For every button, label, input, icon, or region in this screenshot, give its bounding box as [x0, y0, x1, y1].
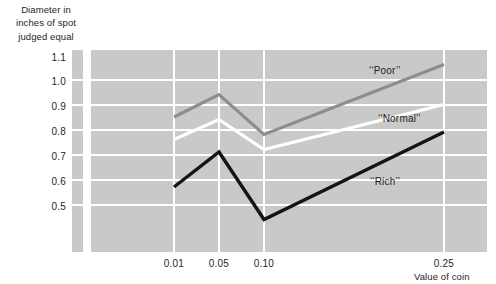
series-label-poor: ‘‘Poor’’: [369, 66, 401, 76]
y-tick-0.9: 0.9: [26, 102, 66, 112]
series-line-rich: [174, 132, 444, 220]
chart-figure: Diameter in inches of spot judged equal …: [0, 0, 496, 284]
x-tick-0.25: 0.25: [414, 259, 474, 269]
series-line-poor: [174, 65, 444, 135]
y-tick-1.0: 1.0: [26, 77, 66, 87]
x-axis-caption: Value of coin: [414, 272, 470, 282]
y-tick-1.1: 1.1: [26, 53, 66, 63]
y-tick-0.7: 0.7: [26, 152, 66, 162]
series-label-rich: ‘‘Rich’’: [370, 177, 400, 187]
y-tick-0.6: 0.6: [26, 177, 66, 187]
x-tick-0.10: 0.10: [234, 259, 294, 269]
y-tick-0.5: 0.5: [26, 202, 66, 212]
y-tick-0.8: 0.8: [26, 127, 66, 137]
series-label-normal: ‘‘Normal’’: [378, 114, 421, 124]
series-line-normal: [174, 105, 444, 150]
series-layer: [0, 0, 496, 284]
